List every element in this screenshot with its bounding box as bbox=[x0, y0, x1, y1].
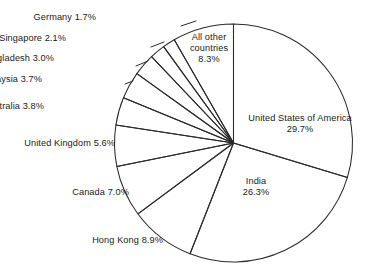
slice-label-bangladesh: Bangladesh 3.0% bbox=[0, 53, 54, 64]
slice-label-all-other-countries: All other countries 8.3% bbox=[176, 32, 242, 65]
slice-label-united-kingdom: United Kingdom 5.6% bbox=[24, 138, 115, 149]
slice-label-australia: Australia 3.8% bbox=[0, 101, 44, 112]
pie-slice-canada bbox=[117, 143, 234, 214]
leader-line-germany bbox=[181, 21, 196, 26]
slice-label-malaysia: Malaysia 3.7% bbox=[0, 74, 42, 85]
pie-chart-figure: Germany 1.7% Singapore 2.1% Bangladesh 3… bbox=[0, 0, 366, 271]
slice-label-hong-kong: Hong Kong 8.9% bbox=[92, 235, 163, 246]
pie-slice-india bbox=[190, 143, 347, 262]
leader-line-malaysia bbox=[125, 81, 133, 84]
pie-slice-united-kingdom bbox=[115, 125, 234, 167]
slice-label-india: India 26.3% bbox=[228, 176, 284, 198]
slice-label-canada: Canada 7.0% bbox=[72, 187, 129, 198]
slice-label-united-states: United States of America 29.7% bbox=[240, 113, 360, 135]
leader-line-bangladesh bbox=[136, 61, 148, 66]
slice-label-singapore: Singapore 2.1% bbox=[0, 33, 66, 44]
pie-slice-united-states-of-america bbox=[234, 24, 353, 177]
leader-line-singapore bbox=[151, 42, 164, 47]
slice-label-germany: Germany 1.7% bbox=[34, 12, 96, 23]
pie-slice-malaysia bbox=[123, 74, 233, 143]
